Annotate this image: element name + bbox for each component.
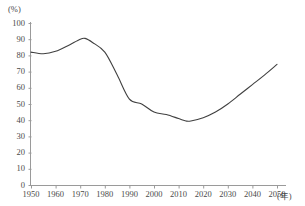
plot-area — [0, 0, 305, 206]
line-chart: (%) (年) 0102030405060708090100 195019601… — [0, 0, 305, 206]
data-series-line — [31, 38, 277, 121]
